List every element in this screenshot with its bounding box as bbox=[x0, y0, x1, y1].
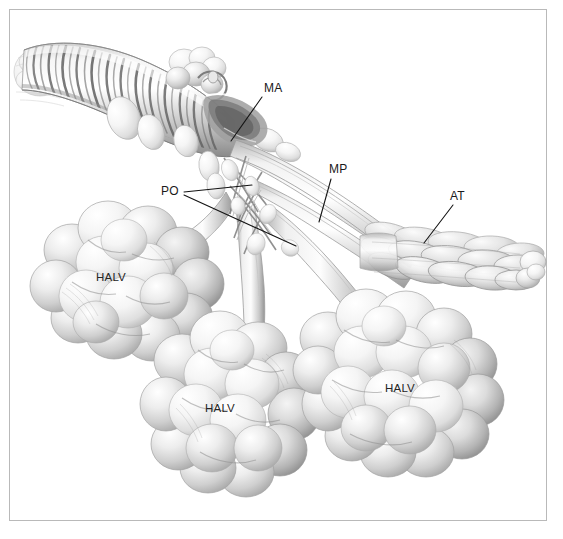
label-halv-right: HALV bbox=[385, 383, 415, 395]
label-halv-middle: HALV bbox=[205, 403, 235, 415]
label-po: PO bbox=[161, 185, 179, 197]
air-tube-cluster-at bbox=[358, 217, 546, 292]
label-ma: MA bbox=[264, 82, 282, 94]
label-at: AT bbox=[450, 190, 465, 202]
label-halv-left: HALV bbox=[96, 272, 126, 284]
figure-root: MA MP PO AT HALV HALV HALV bbox=[0, 0, 563, 539]
label-mp: MP bbox=[329, 163, 347, 175]
